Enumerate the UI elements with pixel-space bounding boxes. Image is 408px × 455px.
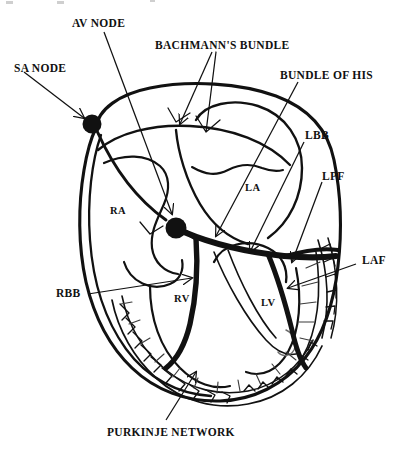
leader-lbb [250, 142, 304, 252]
label-la: LA [245, 183, 261, 194]
label-av-node: AV NODE [72, 18, 125, 30]
label-bachmanns-bundle: BACHMANN'S BUNDLE [155, 40, 290, 52]
ventricular-structures [150, 243, 319, 387]
label-bundle-of-his: BUNDLE OF HIS [280, 70, 373, 82]
av-node-marker [166, 218, 187, 239]
sa-node-marker [83, 115, 102, 134]
label-ra: RA [110, 206, 126, 217]
leader-lines [24, 32, 356, 420]
label-purkinje-network: PURKINJE NETWORK [107, 427, 235, 439]
label-rv: RV [174, 294, 190, 305]
label-rbb: RBB [56, 288, 81, 300]
leader-sa-node [24, 72, 84, 118]
label-lpf: LPF [322, 171, 345, 183]
atrial-septum [176, 102, 302, 244]
leader-rbb [88, 278, 192, 294]
label-lv: LV [261, 298, 276, 309]
label-lbb: LBB [305, 130, 329, 142]
scan-artifacts [6, 0, 155, 4]
secondary-arrow-strokes [140, 52, 220, 234]
leader-bachmanns-bundle [180, 52, 212, 124]
label-laf: LAF [362, 255, 386, 267]
conduction-system-figure: SA NODE AV NODE BACHMANN'S BUNDLE BUNDLE… [0, 0, 408, 455]
label-sa-node: SA NODE [14, 63, 66, 75]
leader-purkinje [166, 372, 196, 420]
leader-av-node [104, 32, 172, 214]
